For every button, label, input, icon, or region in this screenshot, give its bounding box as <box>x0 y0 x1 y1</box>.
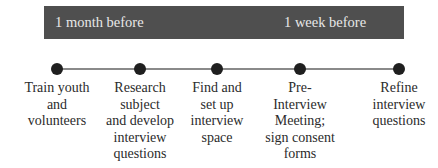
step-refine-questions: Refine interview questions <box>354 80 438 130</box>
step-find-space: Find and set up interview space <box>172 80 262 146</box>
timeline-dot-icon <box>393 63 405 75</box>
timeline-dot-icon <box>211 63 223 75</box>
timeline-dot-icon <box>134 63 146 75</box>
timeline-line <box>57 68 399 70</box>
step-train-youth: Train youth and volunteers <box>12 80 102 130</box>
timeline-header-bar: 1 month before 1 week before <box>44 6 404 39</box>
label-1-month-before: 1 month before <box>55 14 144 31</box>
timeline-dot-icon <box>51 63 63 75</box>
step-pre-interview-meeting: Pre- Interview Meeting; sign consent for… <box>255 80 345 163</box>
timeline-dot-icon <box>294 63 306 75</box>
label-1-week-before: 1 week before <box>284 14 366 31</box>
